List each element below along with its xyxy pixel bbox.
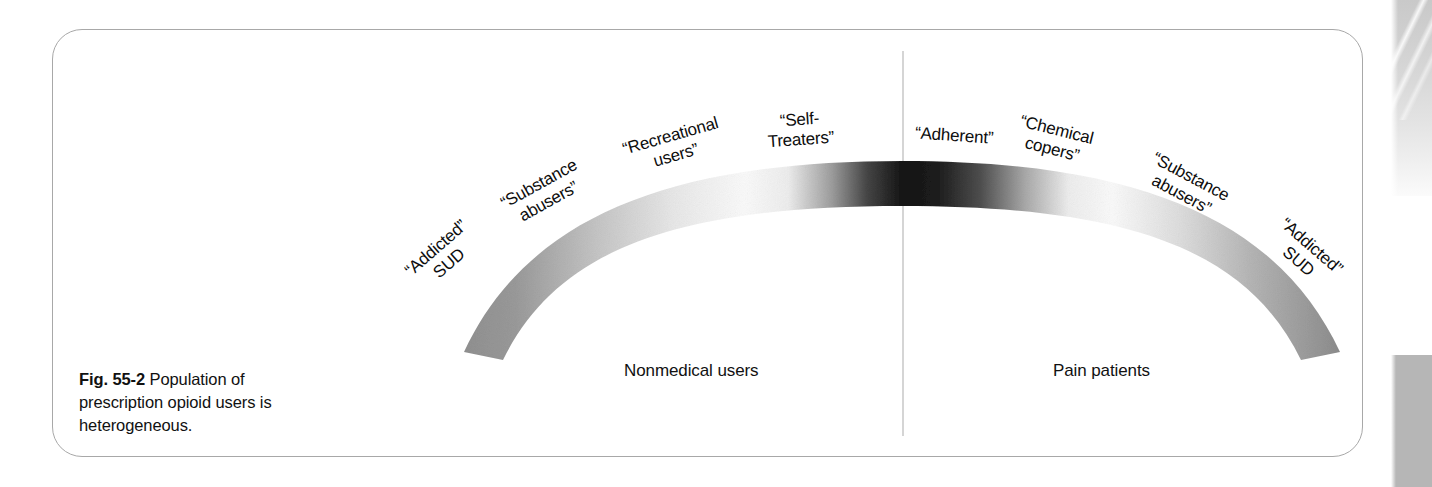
arch-label-recreational-users: “Recreational users” [620,113,726,179]
arch-label-addicted-left: “Addicted” SUD [401,216,484,296]
arch-label-substance-abusers-left: “Substance abusers” [498,155,591,231]
group-label-pain-patients: Pain patients [1053,361,1150,381]
figure-card: Fig. 55-2 Population of prescription opi… [52,29,1363,457]
scan-artifact-streaks [1391,0,1432,120]
arch-label-line1: “Adherent” [914,123,994,148]
arch-label-line2: Treaters” [767,128,835,153]
scan-artifact-bottom [1391,355,1432,487]
scan-artifact-top [1391,0,1432,196]
arch-label-chemical-copers: “Chemical copers” [1013,112,1095,169]
half-divider [902,51,904,436]
arch-label-addicted-right: “Addicted” SUD [1263,214,1346,294]
arch-label-substance-abusers-right: “Substance abusers” [1140,149,1233,224]
group-label-nonmedical-users: Nonmedical users [624,361,758,381]
figure-number: Fig. 55-2 [79,370,145,388]
figure-caption: Fig. 55-2 Population of prescription opi… [79,368,329,437]
scan-artifact-top-edge [1391,0,1398,196]
scan-artifact-bottom-edge [1391,355,1396,487]
arch-label-self-treaters: “Self- Treaters” [766,108,835,153]
arch-label-adherent: “Adherent” [914,123,994,148]
figure-page: Fig. 55-2 Population of prescription opi… [0,0,1432,487]
